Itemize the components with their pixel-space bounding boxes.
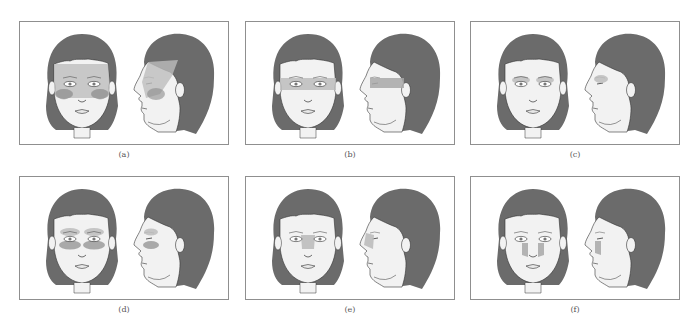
face-diagram-a	[20, 22, 227, 143]
shade-nose-side-left	[522, 243, 528, 257]
panel-a	[19, 21, 229, 145]
panel-label-f: (f)	[470, 305, 680, 314]
face-diagram-e	[246, 177, 453, 298]
shade-nose-bridge-front	[301, 235, 315, 249]
panel-d	[19, 176, 229, 300]
panel-e	[245, 176, 455, 300]
shade-nose-side-right	[538, 243, 544, 257]
face-diagram-c	[471, 22, 678, 143]
shade-eye-band-front	[280, 78, 336, 90]
shade-nose-side-profile	[595, 241, 601, 255]
panel-b	[245, 21, 455, 145]
panel-label-c: (c)	[470, 150, 680, 159]
face-diagram-d	[20, 177, 227, 298]
panel-c	[470, 21, 680, 145]
shade-eye-band-profile	[370, 78, 404, 88]
face-diagram-b	[246, 22, 453, 143]
panel-label-b: (b)	[245, 150, 455, 159]
panel-label-a: (a)	[19, 150, 229, 159]
face-diagram-f	[471, 177, 678, 298]
panel-label-d: (d)	[19, 305, 229, 314]
panel-f	[470, 176, 680, 300]
panel-label-e: (e)	[245, 305, 455, 314]
shade-brow-profile	[594, 75, 608, 83]
